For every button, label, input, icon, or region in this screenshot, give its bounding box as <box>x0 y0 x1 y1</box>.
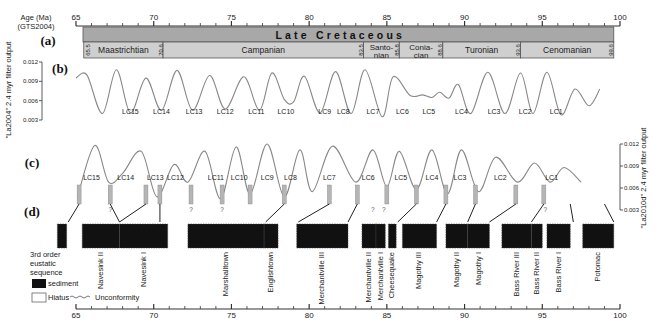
axis-tick-label: 80 <box>305 13 314 22</box>
cycle-minimum-marker <box>473 185 477 204</box>
boundary-age: 65.5 <box>85 44 91 56</box>
cycle-minimum-marker <box>514 185 518 204</box>
cycle-minimum-marker <box>77 185 81 204</box>
panel-label-d: (d) <box>24 204 40 219</box>
correlation-line <box>570 204 573 222</box>
cycle-minimum-marker <box>542 185 546 204</box>
cycle-minimum-marker <box>414 185 418 204</box>
cycle-label: LC1 <box>545 174 558 181</box>
sequence-name: Potomac <box>593 252 602 282</box>
stage-label: Cenomanian <box>543 45 591 55</box>
cycle-label: LC12 <box>217 108 234 115</box>
axis-tick-label: 100 <box>613 311 627 320</box>
correlation-line <box>437 204 446 222</box>
sediment-block <box>402 224 436 248</box>
cycle-minimum-marker <box>220 185 224 204</box>
sequence-name: Navesink I <box>139 252 148 287</box>
axis-tick-label: 100 <box>613 13 627 22</box>
sequence-name: Merchantville II <box>364 252 373 302</box>
axis-tick-label: 80 <box>305 311 314 320</box>
sediment-block <box>57 224 66 248</box>
y-axis-title-c: "La2010d" 2.4 myr filter output <box>639 127 648 229</box>
cycle-minimum-marker <box>248 185 252 204</box>
bottom-age-axis: 65707580859095100 <box>72 304 628 320</box>
axis-tick-label: 70 <box>149 13 158 22</box>
cycle-label: LC4 <box>455 108 468 115</box>
cycle-label: LC8 <box>337 108 350 115</box>
sediment-block <box>297 224 348 248</box>
cycle-label: LC12 <box>167 174 184 181</box>
axis-tick-label: 65 <box>72 13 81 22</box>
correlation-line <box>298 204 329 222</box>
panel-d-eustatic-sequences: (d)Navesink IINavesink IMarshalltownEngl… <box>24 204 614 305</box>
cycle-label: LC11 <box>208 174 224 181</box>
panel-c-la2010d-curve: 0.0120.0090.0060.003"La2010d" 2.4 myr fi… <box>25 127 648 229</box>
correlation-line <box>531 204 543 222</box>
axis-tick-label: 90 <box>460 13 469 22</box>
correlation-line <box>120 204 146 222</box>
cycle-label: LC3 <box>488 108 501 115</box>
boundary-age: 88.6 <box>437 44 443 56</box>
cycle-label: LC11 <box>248 108 264 115</box>
cycle-label: LC7 <box>366 108 379 115</box>
sequence-name: Bass River I <box>554 252 563 292</box>
cycle-label: LC10 <box>231 174 248 181</box>
sediment-block <box>547 224 570 248</box>
correlation-line <box>489 204 515 222</box>
legend-title-line2: eustatic <box>30 259 56 268</box>
cycle-label: LC1 <box>550 108 563 115</box>
sediment-block <box>583 224 614 248</box>
uncertainty-mark: ? <box>108 206 112 213</box>
sequence-name: Magothy III <box>414 252 423 289</box>
uncertainty-mark: ? <box>382 206 386 213</box>
cycle-label: LC15 <box>83 174 100 181</box>
panel-label-a: (a) <box>40 33 55 48</box>
axis-tick-label: 65 <box>72 311 81 320</box>
sediment-block <box>531 224 542 248</box>
uncertainty-mark: ? <box>220 206 224 213</box>
sequence-name: Marshalltown <box>221 252 230 296</box>
uncertainty-mark: ? <box>544 206 548 213</box>
sequence-legend: 3rd ordereustaticsequencesedimentHiatusU… <box>30 250 139 302</box>
cycle-minimum-marker <box>144 185 148 204</box>
sediment-block <box>120 224 168 248</box>
legend-title-line3: sequence <box>30 268 63 277</box>
y-tick-label: 0.012 <box>23 59 39 65</box>
sequence-name: Bass River III <box>512 252 521 297</box>
cycle-minimum-marker <box>108 185 112 204</box>
sediment-block <box>388 224 396 248</box>
cycle-minimum-marker <box>444 185 448 204</box>
cycle-label: LC14 <box>117 174 134 181</box>
sequence-name: Magothy II <box>452 252 461 287</box>
figure: 65707580859095100Age (Ma)(GTS2004) (a)La… <box>0 0 655 331</box>
cycle-minimum-marker <box>158 185 162 204</box>
axis-tick-label: 85 <box>382 13 391 22</box>
boundary-age: 99.6 <box>608 44 614 56</box>
cycle-label: LC13 <box>186 108 203 115</box>
sequence-name: Englishtown <box>266 252 275 292</box>
boundary-age: 83.5 <box>358 44 364 56</box>
axis-tick-label: 95 <box>538 13 547 22</box>
cycle-label: LC13 <box>147 174 164 181</box>
stage-label: Campanian <box>242 45 286 55</box>
cycle-label: LC7 <box>323 174 336 181</box>
sequence-name: Navesink II <box>96 252 105 289</box>
y-tick-label: 0.003 <box>624 207 640 213</box>
stage-label: Maastrichtian <box>98 45 149 55</box>
sediment-block <box>188 224 264 248</box>
cycle-minimum-marker <box>355 185 359 204</box>
cycle-label: LC5 <box>422 108 435 115</box>
cycle-minimum-marker <box>282 185 286 204</box>
axis-subtitle: (GTS2004) <box>17 22 55 31</box>
sequence-name: Magothy I <box>474 252 483 285</box>
cycle-label: LC8 <box>284 174 297 181</box>
cycle-label: LC9 <box>261 174 274 181</box>
panel-a-stratigraphy: (a)Late CretaceousMaastrichtianCampanian… <box>40 27 614 60</box>
cycle-label: LC9 <box>318 108 331 115</box>
axis-tick-label: 85 <box>382 311 391 320</box>
panel-label-b: (b) <box>52 61 68 76</box>
legend-unconformity-label: Unconformity <box>95 293 139 302</box>
legend-hiatus-swatch <box>32 293 46 302</box>
cycle-label: LC10 <box>277 108 294 115</box>
axis-title: Age (Ma) <box>21 13 52 22</box>
